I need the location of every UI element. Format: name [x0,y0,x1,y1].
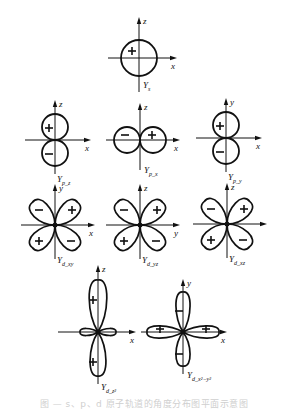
orbital-lobe [201,224,227,250]
vertical-axis-label: z [143,102,148,112]
axis-arrow-icon [173,223,180,227]
horizontal-axis-label: x [220,335,225,345]
vertical-axis-label: y [58,183,63,193]
orbital-dz2: xzYd_z² [58,264,136,394]
axis-arrow-icon [260,222,267,226]
orbital-s: xzYs [108,16,177,92]
axis-arrow-icon [173,138,180,142]
figure-caption: 图 — s、p、d 原子轨道的角度分布图平面示意图 [0,399,288,409]
plus-sign [207,236,215,244]
axis-arrow-icon [84,138,91,142]
horizontal-axis-label: x [255,141,260,151]
orbital-lobe [55,199,81,225]
orbital-lobe [114,225,140,251]
vertical-axis-label: z [101,264,106,274]
orbital-label: Yd_yz [142,255,159,267]
nucleus [138,223,143,228]
horizontal-axis-label: x [84,143,89,153]
axis-arrow-icon [53,100,57,107]
horizontal-axis-label: y [173,228,178,238]
horizontal-axis-label: x [129,335,134,345]
orbital-lobe [29,225,55,251]
axis-arrow-icon [137,17,141,24]
orbital-lobe [55,225,81,251]
axis-arrow-icon [138,184,142,191]
axis-arrow-icon [255,136,262,140]
axis-arrow-icon [53,184,57,191]
orbital-label: Yd_x²−y² [187,370,211,382]
orbital-dx2y2: xyYd_x²−y² [141,278,227,382]
plus-sign [240,205,248,213]
axis-arrow-icon [181,279,185,286]
nucleus [181,330,186,335]
axis-arrow-icon [96,265,100,272]
axis-arrow-icon [225,183,229,190]
orbital-label: Yd_z² [101,382,116,394]
vertical-axis-label: z [58,99,63,109]
orbital-lobe [29,199,55,225]
plus-sign [45,124,53,132]
horizontal-axis-label: x [173,143,178,153]
orbital-dyz: yzYd_yz [106,183,180,267]
orbital-lobe [140,225,166,251]
orbital-lobe [140,199,166,225]
orbital-px: xzYp_x [106,102,180,177]
orbital-lobe [227,198,253,224]
orbital-label: Yd_xy [57,255,74,267]
orbital-lobe [201,198,227,224]
orbital-lobe [227,224,253,250]
plus-sign [120,237,128,245]
vertical-axis-label: y [229,97,234,107]
axis-arrow-icon [170,56,177,60]
orbital-dxz: zYd_xz [193,182,267,266]
axis-arrow-icon [129,330,136,334]
axis-arrow-icon [88,223,95,227]
plus-sign [153,206,161,214]
plus-sign [216,122,224,130]
plus-sign [128,47,136,55]
vertical-axis-label: y [186,278,191,288]
plus-sign [148,131,156,139]
orbital-py: xyYp_y [196,97,262,184]
axis-arrow-icon [220,330,227,334]
nucleus [96,330,101,335]
horizontal-axis-label: x [170,61,175,71]
horizontal-axis-label: x [88,228,93,238]
vertical-axis-label: z [230,182,235,192]
plus-sign [35,237,43,245]
orbital-angular-distribution-diagram: xzYsxzYp_zxzYp_xxyYp_yxyYd_xyyzYd_yzzYd_… [0,0,288,409]
plus-sign [68,206,76,214]
axis-arrow-icon [138,103,142,110]
orbital-dxy: xyYd_xy [21,183,95,267]
vertical-axis-label: z [142,16,147,26]
axis-arrow-icon [224,98,228,105]
orbital-lobe [114,199,140,225]
orbital-label: Ys [143,80,151,92]
nucleus [53,223,58,228]
nucleus [225,222,230,227]
orbital-label: Yd_xz [229,254,246,266]
orbital-pz: xzYp_z [25,99,91,186]
orbital-label: Yp_x [144,165,158,177]
vertical-axis-label: z [143,183,148,193]
